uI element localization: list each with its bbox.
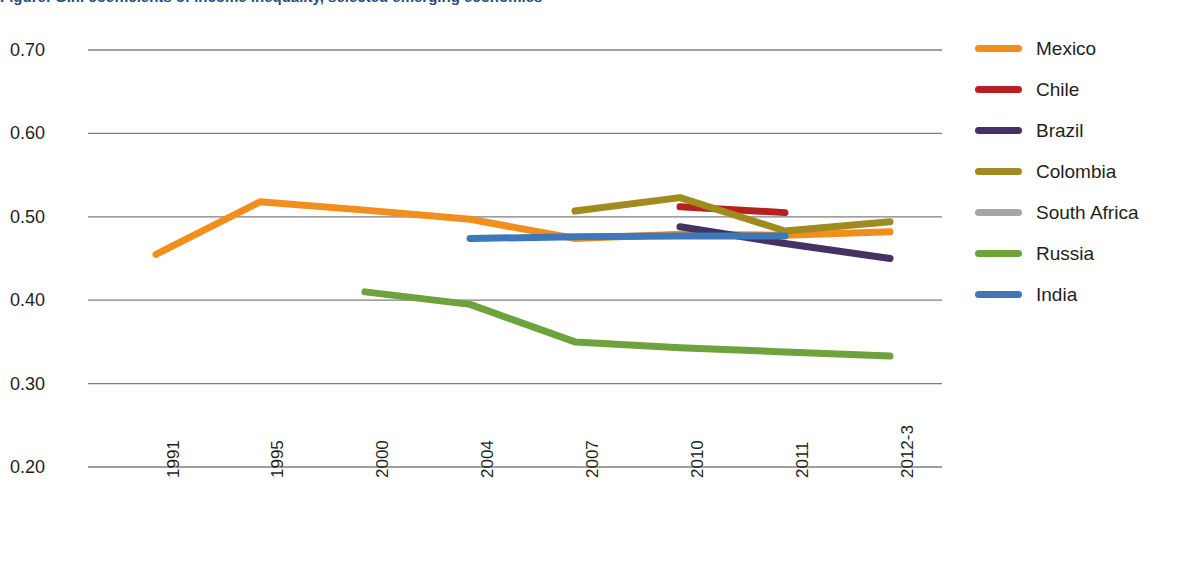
legend-swatch-icon — [975, 127, 1022, 134]
legend-swatch-icon — [975, 45, 1022, 52]
y-axis-tick-label: 0.50 — [10, 208, 80, 226]
legend-item-label: Brazil — [1036, 120, 1084, 142]
y-axis-tick-label: 0.60 — [10, 124, 80, 142]
legend-item-brazil[interactable]: Brazil — [975, 110, 1187, 151]
x-axis-tick-label: 2004 — [478, 440, 498, 478]
series-line-colombia — [575, 198, 890, 231]
legend-item-label: Russia — [1036, 243, 1094, 265]
legend-item-russia[interactable]: Russia — [975, 233, 1187, 274]
y-axis-tick-label: 0.30 — [10, 375, 80, 393]
series-line-russia — [365, 292, 890, 356]
legend-swatch-icon — [975, 209, 1022, 216]
y-axis-tick-label: 0.40 — [10, 291, 80, 309]
legend-swatch-icon — [975, 250, 1022, 257]
y-axis-tick-label: 0.70 — [10, 41, 80, 59]
y-axis-tick-label: 0.20 — [10, 458, 80, 476]
x-axis-tick-label: 2010 — [688, 440, 708, 478]
chart-canvas — [0, 0, 950, 570]
legend-item-colombia[interactable]: Colombia — [975, 151, 1187, 192]
legend-swatch-icon — [975, 168, 1022, 175]
legend-item-mexico[interactable]: Mexico — [975, 28, 1187, 69]
x-axis-tick-label: 2012-3 — [898, 425, 918, 478]
legend-item-label: Mexico — [1036, 38, 1096, 60]
x-axis-tick-label: 2000 — [373, 440, 393, 478]
series-lines — [156, 198, 890, 356]
x-axis-tick-label: 1991 — [164, 440, 184, 478]
legend-item-label: South Africa — [1036, 202, 1138, 224]
legend-item-south-africa[interactable]: South Africa — [975, 192, 1187, 233]
x-axis-tick-label: 1995 — [268, 440, 288, 478]
legend-swatch-icon — [975, 291, 1022, 298]
legend-item-label: India — [1036, 284, 1077, 306]
legend-item-label: Colombia — [1036, 161, 1116, 183]
plot-area: 0.700.600.500.400.300.20 199119952000200… — [0, 0, 950, 570]
legend-item-india[interactable]: India — [975, 274, 1187, 315]
x-axis-tick-label: 2011 — [793, 441, 813, 478]
gridlines — [88, 50, 942, 467]
series-line-india — [470, 236, 785, 239]
legend-item-chile[interactable]: Chile — [975, 69, 1187, 110]
chart-legend: MexicoChileBrazilColombiaSouth AfricaRus… — [975, 28, 1187, 315]
x-axis-tick-label: 2007 — [583, 440, 603, 478]
legend-item-label: Chile — [1036, 79, 1079, 101]
legend-swatch-icon — [975, 86, 1022, 93]
